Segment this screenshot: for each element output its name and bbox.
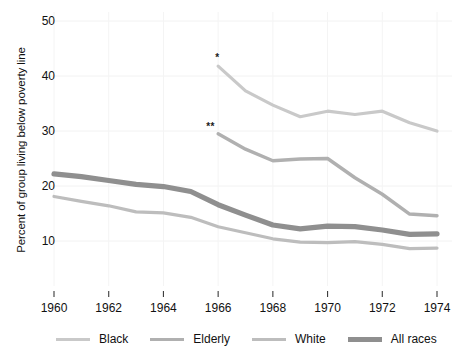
x-tick-label: 1974: [414, 302, 460, 314]
x-tick-label: 1972: [359, 302, 405, 314]
legend-item-black[interactable]: Black: [56, 332, 128, 346]
legend-label: All races: [391, 332, 437, 346]
series-line-all-races: [54, 174, 437, 235]
data-series-layer: [54, 66, 437, 249]
legend-label: Black: [99, 332, 128, 346]
axis-ticks: [54, 291, 437, 297]
x-tick-label: 1964: [140, 302, 186, 314]
chart-figure: Percent of group living below poverty li…: [0, 0, 466, 356]
y-tick-label: 50: [27, 15, 55, 27]
legend-swatch: [252, 338, 286, 341]
legend-swatch: [56, 338, 90, 341]
footnote-marker-black: *: [215, 53, 219, 63]
legend-label: Elderly: [193, 332, 230, 346]
legend-item-elderly[interactable]: Elderly: [150, 332, 230, 346]
legend-swatch: [150, 338, 184, 341]
x-tick-label: 1966: [195, 302, 241, 314]
x-tick-label: 1962: [86, 302, 132, 314]
legend-swatch: [348, 337, 382, 342]
y-tick-label: 30: [27, 125, 55, 137]
y-tick-label: 40: [27, 70, 55, 82]
y-tick-label: 20: [27, 180, 55, 192]
legend-item-all-races[interactable]: All races: [348, 332, 437, 346]
x-tick-label: 1960: [31, 302, 77, 314]
footnote-marker-elderly: **: [206, 122, 215, 132]
legend-item-white[interactable]: White: [252, 332, 326, 346]
legend-label: White: [295, 332, 326, 346]
x-tick-label: 1970: [305, 302, 351, 314]
y-tick-label: 10: [27, 235, 55, 247]
x-tick-label: 1968: [250, 302, 296, 314]
chart-legend: BlackElderlyWhiteAll races: [56, 329, 456, 349]
